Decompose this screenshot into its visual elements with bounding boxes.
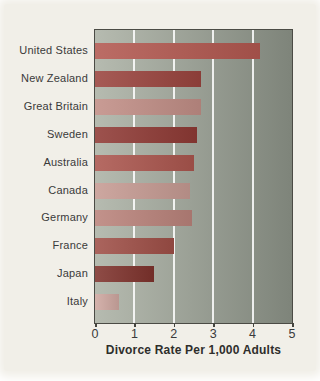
bar-new-zealand xyxy=(95,71,201,87)
category-label-japan: Japan xyxy=(2,266,88,280)
bar-france xyxy=(95,238,174,254)
x-tick-label-3: 3 xyxy=(210,327,217,341)
category-label-canada: Canada xyxy=(2,183,88,197)
gridline-x3 xyxy=(212,30,214,323)
category-label-united-states: United States xyxy=(2,43,88,57)
bar-united-states xyxy=(95,43,260,59)
plot-area xyxy=(94,29,293,324)
bar-japan xyxy=(95,266,154,282)
x-tick-label-4: 4 xyxy=(249,327,256,341)
x-tick-label-2: 2 xyxy=(170,327,177,341)
x-tick-label-0: 0 xyxy=(92,327,99,341)
x-axis-title: Divorce Rate Per 1,000 Adults xyxy=(94,343,293,357)
category-label-sweden: Sweden xyxy=(2,127,88,141)
gridline-x4 xyxy=(252,30,254,323)
x-tick-label-1: 1 xyxy=(131,327,138,341)
bar-italy xyxy=(95,294,119,310)
category-label-new-zealand: New Zealand xyxy=(2,71,88,85)
category-label-australia: Australia xyxy=(2,155,88,169)
bar-canada xyxy=(95,183,190,199)
bar-great-britain xyxy=(95,99,201,115)
bar-australia xyxy=(95,155,194,171)
divorce-rate-bar-chart: Divorce Rate Per 1,000 Adults United Sta… xyxy=(0,0,320,381)
category-label-germany: Germany xyxy=(2,210,88,224)
x-tick-label-5: 5 xyxy=(289,327,296,341)
category-label-great-britain: Great Britain xyxy=(2,99,88,113)
bar-germany xyxy=(95,210,192,226)
category-label-france: France xyxy=(2,238,88,252)
bar-sweden xyxy=(95,127,197,143)
category-label-italy: Italy xyxy=(2,294,88,308)
